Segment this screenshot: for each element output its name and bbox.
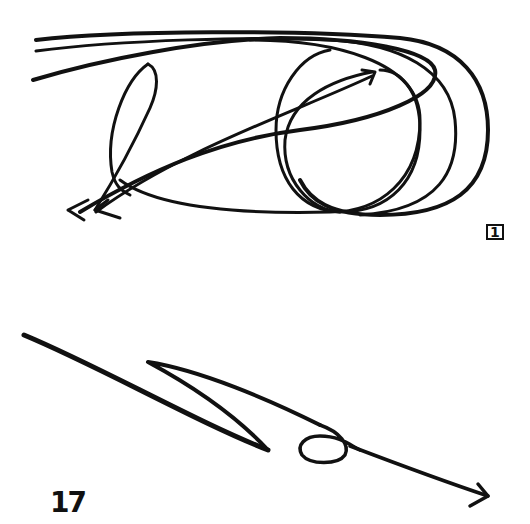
sketch-canvas bbox=[0, 0, 530, 524]
panel-label-1: 1 bbox=[486, 224, 504, 240]
lower-sketch bbox=[24, 335, 488, 506]
upper-sketch bbox=[33, 32, 488, 220]
panel-label-17: 17 bbox=[50, 486, 85, 519]
